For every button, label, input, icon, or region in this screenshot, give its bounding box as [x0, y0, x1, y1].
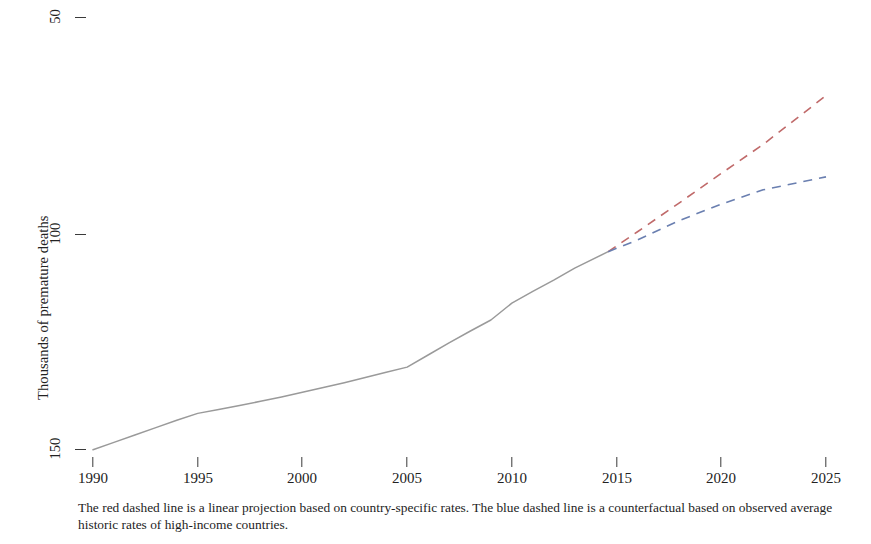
figure-caption: The red dashed line is a linear projecti… [78, 500, 868, 533]
series-line-counterfactual-blue [608, 177, 826, 252]
series-line-observed [93, 252, 608, 450]
plot-area [0, 0, 871, 544]
chart-figure: Thousands of premature deaths 50 100 150… [0, 0, 871, 544]
series-line-projection-red [608, 96, 826, 252]
